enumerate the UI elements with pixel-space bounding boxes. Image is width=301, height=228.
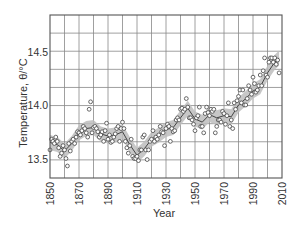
data-point — [63, 148, 67, 152]
data-point — [110, 139, 114, 143]
y-tick-label: 13.5 — [28, 153, 49, 165]
x-tick-label: 1990 — [247, 182, 259, 206]
data-point — [276, 58, 280, 62]
data-point — [237, 95, 241, 99]
data-point — [155, 137, 159, 141]
data-point — [129, 137, 133, 141]
data-point — [139, 148, 143, 152]
data-point — [105, 121, 109, 125]
data-point — [260, 84, 264, 88]
y-tick-label: 14.0 — [28, 99, 49, 111]
data-point — [55, 139, 59, 143]
data-point — [118, 139, 122, 143]
data-point — [215, 125, 219, 129]
data-point — [89, 100, 93, 104]
data-point — [244, 103, 248, 107]
data-point — [184, 97, 188, 101]
data-point — [234, 107, 238, 111]
data-point — [251, 75, 255, 79]
data-point — [248, 88, 252, 92]
data-point — [163, 144, 167, 148]
x-tick-label: 1870 — [73, 182, 85, 206]
data-point — [253, 82, 257, 86]
data-point — [267, 60, 271, 64]
data-point — [142, 133, 146, 137]
data-point — [250, 92, 254, 96]
data-point — [121, 120, 125, 124]
data-point — [219, 120, 223, 124]
data-point — [213, 131, 217, 135]
data-point — [247, 84, 251, 88]
y-tick-label: 14.5 — [28, 46, 49, 58]
data-point — [147, 148, 151, 152]
data-point — [157, 133, 161, 137]
temperature-chart: 13.514.014.5 185018701890191019301950197… — [0, 0, 301, 228]
x-tick-label: 2010 — [276, 182, 288, 206]
data-point — [231, 127, 235, 131]
data-point — [200, 125, 204, 129]
data-point — [68, 149, 72, 153]
data-point — [205, 105, 209, 109]
data-point — [122, 127, 126, 131]
data-point — [64, 157, 68, 161]
data-point — [226, 101, 230, 105]
data-point — [192, 122, 196, 126]
data-point — [186, 105, 190, 109]
data-point — [196, 114, 200, 118]
x-tick-label: 1930 — [160, 182, 172, 206]
data-point — [161, 131, 165, 135]
data-point — [229, 118, 233, 122]
data-point — [145, 158, 149, 162]
y-axis-title: Temperature, θ/°C — [17, 58, 29, 147]
data-point — [255, 88, 259, 92]
data-point — [137, 159, 141, 163]
x-tick-labels: 185018701890191019301950197019902010 — [44, 182, 288, 206]
data-point — [168, 139, 172, 143]
data-point — [266, 75, 270, 79]
data-point — [258, 73, 262, 77]
data-point — [57, 146, 61, 150]
y-tick-labels: 13.514.014.5 — [28, 46, 49, 165]
data-point — [208, 114, 212, 118]
data-point — [202, 131, 206, 135]
data-point — [245, 97, 249, 101]
data-point — [190, 118, 194, 122]
data-point — [277, 71, 281, 75]
data-point — [87, 107, 91, 111]
data-point — [274, 62, 278, 66]
data-point — [128, 144, 132, 148]
data-point — [151, 129, 155, 133]
data-point — [241, 88, 245, 92]
data-point — [61, 144, 65, 148]
data-point — [79, 133, 83, 137]
data-point — [263, 56, 267, 60]
data-point — [158, 125, 162, 129]
data-point — [197, 105, 201, 109]
x-tick-label: 1950 — [189, 182, 201, 206]
data-point — [103, 129, 107, 133]
data-point — [224, 122, 228, 126]
data-point — [212, 107, 216, 111]
x-axis-title: Year — [153, 207, 176, 219]
data-point — [90, 131, 94, 135]
data-point — [54, 135, 58, 139]
data-point — [124, 139, 128, 143]
data-point — [74, 135, 78, 139]
data-point — [235, 99, 239, 103]
data-point — [102, 139, 106, 143]
data-point — [73, 142, 77, 146]
data-point — [60, 151, 64, 155]
x-tick-label: 1910 — [131, 182, 143, 206]
x-tick-label: 1970 — [218, 182, 230, 206]
data-point — [126, 151, 130, 155]
x-tick-label: 1890 — [102, 182, 114, 206]
x-tick-label: 1850 — [44, 182, 56, 206]
data-point — [86, 135, 90, 139]
data-point — [108, 133, 112, 137]
data-point — [66, 164, 70, 168]
data-point — [106, 137, 110, 141]
data-point — [177, 118, 181, 122]
data-point — [113, 132, 117, 136]
data-point — [83, 127, 87, 131]
data-point — [135, 154, 139, 158]
